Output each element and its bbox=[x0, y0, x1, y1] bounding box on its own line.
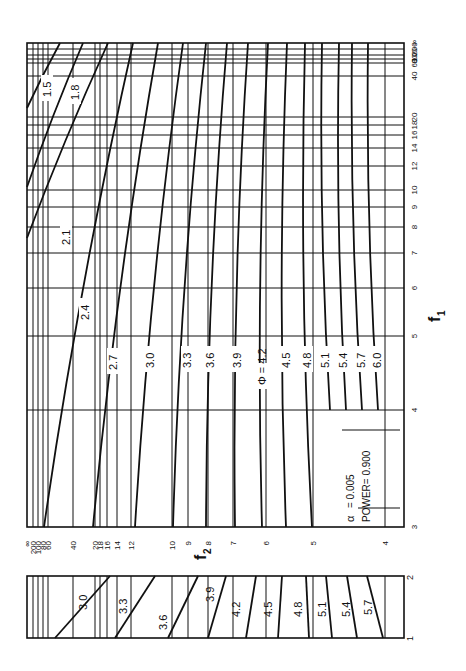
svg-text:2: 2 bbox=[202, 548, 213, 554]
curve-label: 3.3 bbox=[181, 353, 193, 368]
f1-tick-label: 3 bbox=[410, 524, 419, 529]
inset-curve-label: 5.1 bbox=[316, 602, 328, 617]
f2-tick-label: 16 bbox=[103, 540, 112, 549]
inset-curve-label: 4.5 bbox=[262, 602, 274, 617]
f1-tick-label: 16 bbox=[410, 130, 419, 139]
inset-curve-label: 5.7 bbox=[362, 600, 374, 615]
inset-plot-curves bbox=[55, 576, 383, 638]
f1-tick-label: 7 bbox=[410, 250, 419, 255]
inset-f1-low-tick: 1 bbox=[405, 636, 415, 641]
curve-label: 3.0 bbox=[144, 353, 156, 368]
curve-phi-4.5 bbox=[282, 43, 287, 527]
curve-label: 6.0 bbox=[371, 353, 383, 368]
f1-tick-label: 8 bbox=[410, 224, 419, 229]
curve-phi-3.9 bbox=[234, 43, 248, 527]
f1-tick-label: 14 bbox=[410, 143, 419, 152]
inset-curve-label: 3.3 bbox=[117, 599, 129, 614]
curve-label: 2.7 bbox=[107, 355, 119, 370]
curve-phi-4.8 bbox=[303, 43, 312, 527]
inset-curve-label: 4.8 bbox=[292, 602, 304, 617]
f2-tick-label: 5 bbox=[309, 540, 318, 545]
f1-tick-label: 20 bbox=[410, 112, 419, 121]
inset-curve-label: 3.9 bbox=[204, 587, 216, 602]
curve-label: 2.4 bbox=[79, 305, 91, 320]
inset-curve-label: 3.0 bbox=[77, 595, 89, 610]
f1-tick-label: 60 bbox=[410, 58, 419, 67]
f2-axis-title: f 2 bbox=[192, 548, 213, 560]
f1-tick-label: 40 bbox=[410, 71, 419, 80]
f2-tick-label: 7 bbox=[229, 540, 238, 545]
curve-label: 1.8 bbox=[69, 85, 81, 100]
curve-phi-2.4 bbox=[44, 43, 133, 527]
f2-tick-label: 40 bbox=[69, 540, 78, 549]
curve-phi-2.7 bbox=[93, 43, 158, 527]
curve-label: 5.4 bbox=[337, 353, 349, 368]
curve-label: 5.1 bbox=[319, 353, 331, 368]
curve-label: 4.8 bbox=[301, 353, 313, 368]
inset-curve-label: 3.6 bbox=[157, 615, 169, 630]
inset-curve-label: 4.2 bbox=[230, 602, 242, 617]
f2-tick-label: 6 bbox=[262, 540, 271, 545]
f1-tick-label: 4 bbox=[410, 407, 419, 412]
curve-phi-2.1 bbox=[27, 43, 108, 238]
curve-phi-3.6 bbox=[206, 43, 227, 527]
inset-curve-phi-3.9 bbox=[208, 576, 226, 638]
f1-tick-label: 12 bbox=[410, 161, 419, 170]
curve-phi-3.3 bbox=[173, 43, 206, 527]
f2-tick-label: 9 bbox=[184, 540, 193, 545]
f2-tick-label: 60 bbox=[44, 540, 53, 549]
main-plot-curve-labels: 1.51.82.12.42.73.03.33.63.9Φ = 4.24.54.8… bbox=[41, 75, 383, 389]
f2-tick-label: 8 bbox=[204, 540, 213, 545]
power-label: POWER= 0.900 bbox=[361, 450, 372, 522]
power-chart: 1.51.82.12.42.73.03.33.63.9Φ = 4.24.54.8… bbox=[0, 0, 466, 671]
curve-label: 3.6 bbox=[204, 353, 216, 368]
alpha-label: α bbox=[344, 515, 356, 522]
curve-label: 3.9 bbox=[231, 353, 243, 368]
f1-tick-label: 10 bbox=[410, 185, 419, 194]
f1-tick-label: 9 bbox=[410, 204, 419, 209]
f2-tick-label: 12 bbox=[127, 540, 136, 549]
f2-tick-label: 14 bbox=[113, 540, 122, 549]
curve-label: 1.5 bbox=[41, 82, 53, 97]
inset-curve-label: 5.4 bbox=[340, 602, 352, 617]
main-plot-curves bbox=[27, 43, 378, 527]
f1-axis-title: f 1 bbox=[426, 310, 447, 322]
f1-tick-label: 5 bbox=[410, 333, 419, 338]
inset-f1-high-tick: 2 bbox=[405, 575, 415, 580]
svg-text:1: 1 bbox=[436, 310, 447, 316]
f2-tick-label: 10 bbox=[168, 540, 177, 549]
curve-label: 4.5 bbox=[280, 353, 292, 368]
f2-tick-label: 4 bbox=[381, 540, 390, 545]
inset-curve-phi-4.8 bbox=[306, 576, 309, 638]
curve-label: Φ = 4.2 bbox=[256, 348, 268, 385]
alpha-value: = 0.005 bbox=[345, 474, 356, 508]
f1-tick-label: 18 bbox=[410, 120, 419, 129]
curve-phi-4.2 bbox=[260, 43, 268, 527]
inset-curve-phi-4.2 bbox=[246, 576, 256, 638]
curve-label: 2.1 bbox=[60, 230, 72, 245]
curve-label: 5.7 bbox=[355, 353, 367, 368]
inset-curve-phi-4.5 bbox=[278, 576, 282, 638]
f1-tick-label: 6 bbox=[410, 285, 419, 290]
alpha-power-annotation: α = 0.005 POWER= 0.900 bbox=[342, 430, 400, 522]
